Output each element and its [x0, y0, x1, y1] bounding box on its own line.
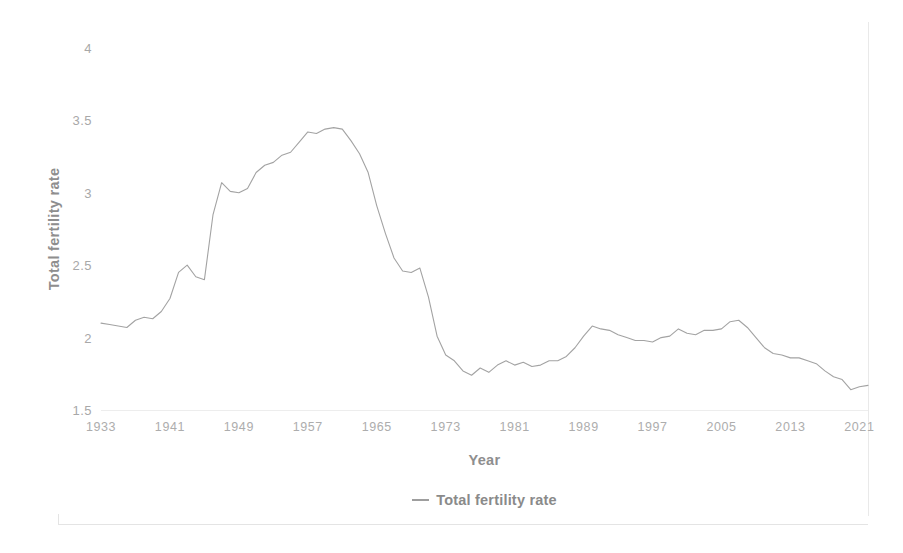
y-axis-title: Total fertility rate: [44, 48, 64, 410]
y-axis-tick-label: 2.5: [72, 258, 92, 273]
series-line-total-fertility-rate: [101, 48, 868, 410]
y-axis-tick-label: 4: [84, 41, 92, 56]
x-axis-tick-label: 2013: [775, 420, 805, 434]
x-axis-tick-label: 1997: [637, 420, 667, 434]
x-axis-tick-label: 2021: [844, 420, 874, 434]
x-axis-tick-label: 1941: [155, 420, 185, 434]
y-axis-tick-label: 3: [84, 185, 92, 200]
y-axis-tick-label: 2: [84, 330, 92, 345]
x-axis-tick-label: 2005: [706, 420, 736, 434]
plot-area: [101, 48, 868, 410]
x-axis-tick-labels: 1933194119491957196519731981198919972005…: [101, 420, 868, 442]
y-axis-title-text: Total fertility rate: [46, 168, 62, 291]
x-axis-tick-label: 1973: [431, 420, 461, 434]
legend-item-total-fertility-rate[interactable]: Total fertility rate: [412, 492, 557, 508]
y-axis-tick-label: 3.5: [72, 113, 92, 128]
legend-line-swatch-icon: [412, 499, 429, 501]
fertility-rate-line-chart: 43.532.521.5 193319411949195719651973198…: [0, 0, 903, 553]
chart-legend: Total fertility rate: [101, 492, 868, 508]
legend-item-label: Total fertility rate: [436, 492, 557, 508]
x-axis-tick-label: 1933: [86, 420, 116, 434]
x-axis-tick-label: 1965: [362, 420, 392, 434]
x-axis-baseline: [101, 410, 868, 411]
plot-frame-right-edge: [868, 22, 869, 516]
x-axis-tick-label: 1989: [568, 420, 598, 434]
y-axis-tick-label: 1.5: [72, 403, 92, 418]
plot-frame-left-tick: [58, 514, 59, 525]
plot-frame-bottom-edge: [58, 524, 868, 525]
x-axis-tick-label: 1957: [293, 420, 323, 434]
x-axis-tick-label: 1981: [500, 420, 530, 434]
x-axis-title: Year: [101, 452, 868, 468]
x-axis-tick-label: 1949: [224, 420, 254, 434]
